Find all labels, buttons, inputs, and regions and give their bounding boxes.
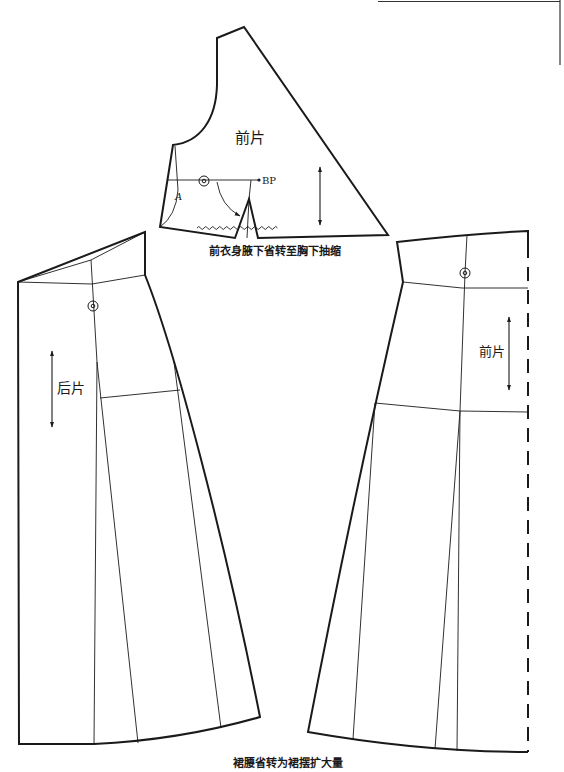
front-bodice-piece: 前片 BP A 前衣身腋下省转至胸下抽缩: [160, 27, 388, 258]
front-center-dart-line: [435, 235, 467, 749]
front-skirt-piece: 前片: [308, 231, 528, 752]
page-corner-marks: [378, 0, 560, 65]
point-a-label: A: [174, 191, 182, 202]
back-skirt-label: 后片: [57, 380, 85, 396]
front-waist-line: [403, 282, 528, 288]
bp-point-dot: [257, 178, 260, 181]
bp-to-dart-line: [249, 180, 251, 199]
gathering-wavy-line: [197, 227, 278, 230]
back-skirt-outline: [18, 232, 260, 744]
front-skirt-label: 前片: [479, 344, 505, 359]
front-slash-line: [457, 411, 460, 751]
front-skirt-outline: [308, 231, 528, 752]
back-skirt-piece: 后片: [18, 232, 260, 744]
front-bodice-label: 前片: [235, 129, 265, 147]
pivot-ring-icon: [88, 301, 98, 311]
bp-label: BP: [262, 175, 276, 186]
front-bodice-caption: 前衣身腋下省转至胸下抽缩: [209, 244, 341, 258]
front-hip-line: [375, 403, 528, 412]
back-slash-line: [97, 362, 138, 743]
skirt-caption: 裙腰省转为裙摆扩大量: [233, 756, 343, 770]
back-hip-line: [100, 390, 180, 398]
dart-transfer-arrow-icon: [217, 182, 240, 216]
pattern-diagram: 前片 BP A 前衣身腋下省转至胸下抽缩 后片 前片: [0, 0, 564, 772]
front-bodice-outline: [160, 27, 388, 238]
back-center-dart-line: [91, 260, 97, 744]
pivot-ring-icon: [199, 176, 209, 186]
original-side-seam-line: [175, 146, 178, 190]
back-side-inner-line: [174, 362, 221, 728]
